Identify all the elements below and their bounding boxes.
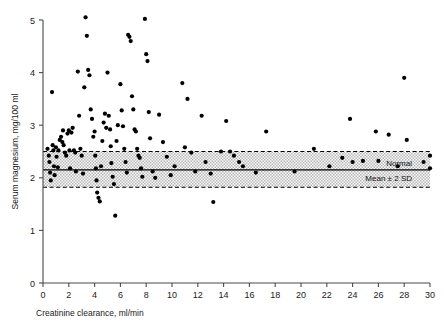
data-point <box>151 169 155 173</box>
data-point <box>203 160 207 164</box>
x-tick-label: 24 <box>348 290 358 300</box>
data-point <box>428 166 432 170</box>
data-point <box>127 35 131 39</box>
data-point <box>61 128 65 132</box>
x-tick-label: 28 <box>399 290 409 300</box>
data-point <box>111 175 115 179</box>
data-point <box>209 171 213 175</box>
data-point <box>47 154 51 158</box>
data-point <box>232 154 236 158</box>
data-point <box>50 90 54 94</box>
data-point <box>143 17 147 21</box>
x-tick-label: 10 <box>167 290 177 300</box>
data-point <box>421 160 425 164</box>
data-point <box>107 114 111 118</box>
data-point <box>108 127 112 131</box>
data-point <box>104 126 108 130</box>
data-point <box>211 200 215 204</box>
data-point <box>387 133 391 137</box>
data-point <box>71 126 75 130</box>
data-point <box>361 159 365 163</box>
data-point <box>83 15 87 19</box>
data-point <box>113 214 117 218</box>
scatter-plot-figure: NormalMean ± 2 SD 0246810121416182022242… <box>0 0 444 328</box>
data-point <box>145 59 149 63</box>
data-point <box>81 171 85 175</box>
data-point <box>139 166 143 170</box>
data-point <box>183 145 187 149</box>
x-tick-label: 16 <box>244 290 254 300</box>
data-point <box>105 71 109 75</box>
x-tick-label: 14 <box>219 290 229 300</box>
data-point <box>200 114 204 118</box>
data-point <box>180 81 184 85</box>
data-point <box>351 160 355 164</box>
data-point <box>264 129 268 133</box>
data-point <box>96 196 100 200</box>
data-point <box>47 160 51 164</box>
data-point <box>130 94 134 98</box>
x-tick-label: 18 <box>270 290 280 300</box>
data-point <box>59 135 63 139</box>
data-point <box>193 169 197 173</box>
data-point <box>118 82 122 86</box>
x-tick-label: 8 <box>144 290 149 300</box>
data-point <box>172 164 176 168</box>
x-tick-label: 6 <box>118 290 123 300</box>
data-point <box>53 173 57 177</box>
data-point <box>134 129 138 133</box>
x-axis-title: Creatinine clearance, ml/min <box>36 308 144 318</box>
data-point <box>64 154 68 158</box>
data-point <box>340 156 344 160</box>
data-point <box>116 123 120 127</box>
data-point <box>153 176 157 180</box>
data-point <box>56 148 60 152</box>
x-tick-label: 0 <box>40 290 45 300</box>
data-point <box>93 129 97 133</box>
data-point <box>77 114 81 118</box>
data-point <box>56 165 60 169</box>
data-point <box>90 117 94 121</box>
data-point <box>396 164 400 168</box>
data-point <box>123 160 127 164</box>
data-point <box>103 112 107 116</box>
data-point <box>428 154 432 158</box>
data-point <box>86 68 90 72</box>
data-point <box>348 117 352 121</box>
data-point <box>376 159 380 163</box>
data-point <box>48 170 52 174</box>
band-label-mean-2sd: Mean ± 2 SD <box>365 174 412 183</box>
plot-canvas: NormalMean ± 2 SD 0246810121416182022242… <box>0 0 444 328</box>
data-point <box>100 139 104 143</box>
data-point <box>68 166 72 170</box>
data-point <box>292 169 296 173</box>
data-point <box>85 34 89 38</box>
data-point <box>102 120 106 124</box>
x-tick-label: 12 <box>193 290 203 300</box>
data-point <box>49 178 53 182</box>
data-point <box>254 170 258 174</box>
data-point <box>138 156 142 160</box>
data-point <box>157 113 161 117</box>
data-point <box>78 147 82 151</box>
data-point <box>93 154 97 158</box>
x-tick-label: 4 <box>92 290 97 300</box>
y-tick-label: 0 <box>30 279 35 289</box>
y-tick-label: 5 <box>30 16 35 26</box>
data-point <box>89 107 93 111</box>
data-point <box>241 164 245 168</box>
y-tick-label: 4 <box>30 68 35 78</box>
data-point <box>52 164 56 168</box>
data-point <box>131 107 135 111</box>
data-point <box>69 130 73 134</box>
x-tick-label: 30 <box>425 290 435 300</box>
data-point <box>73 150 77 154</box>
data-point <box>67 148 71 152</box>
data-point <box>54 155 58 159</box>
data-point <box>135 147 139 151</box>
x-tick-label: 20 <box>296 290 306 300</box>
data-point <box>45 147 49 151</box>
data-point <box>185 97 189 101</box>
data-point <box>109 144 113 148</box>
data-point <box>87 73 91 77</box>
